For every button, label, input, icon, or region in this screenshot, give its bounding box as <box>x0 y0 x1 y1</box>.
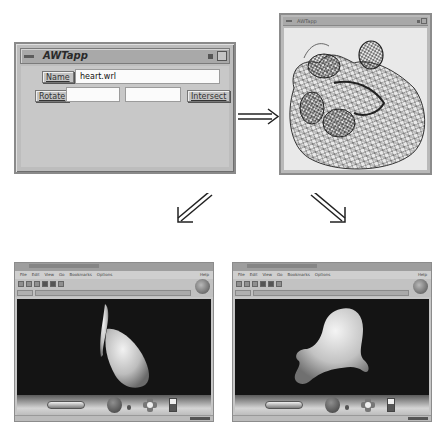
location-input[interactable] <box>35 290 191 296</box>
throbber-icon <box>195 279 210 294</box>
heart-model-icon <box>235 299 429 395</box>
navigation-dashboard <box>235 395 429 417</box>
heart-model-icon <box>17 299 211 395</box>
browser-titlebar[interactable] <box>233 263 431 271</box>
status-indicator <box>190 417 210 420</box>
forward-icon[interactable] <box>244 281 250 287</box>
vrml-browser-right: File Edit View Go Bookmarks Options Help <box>232 262 432 422</box>
location-label <box>17 290 33 296</box>
window-menu-icon[interactable] <box>24 55 34 58</box>
window-title: AWTapp <box>297 17 317 25</box>
menu-options[interactable]: Options <box>315 271 330 279</box>
reload-icon[interactable] <box>260 281 266 287</box>
arrow-right-icon <box>238 108 280 126</box>
intersect-button[interactable]: Intersect <box>187 90 230 102</box>
viewpoint-selector[interactable] <box>47 401 85 409</box>
browser-menubar: File Edit View Go Bookmarks Options Help <box>15 271 213 279</box>
location-bar <box>15 289 213 297</box>
window-menu-icon[interactable] <box>286 20 292 22</box>
minimize-icon[interactable] <box>208 54 213 59</box>
menu-help[interactable]: Help <box>200 271 209 279</box>
menu-view[interactable]: View <box>262 271 272 279</box>
window-title: AWTapp <box>43 50 88 61</box>
menu-file[interactable]: File <box>238 271 245 279</box>
arrow-down-right-icon <box>308 193 348 225</box>
browser-title <box>247 264 317 268</box>
arrow-down-left-icon <box>175 193 215 225</box>
navigation-dashboard <box>17 395 211 417</box>
rotate-ball-icon[interactable] <box>107 397 122 413</box>
forward-icon[interactable] <box>26 281 32 287</box>
rotate-field-2[interactable] <box>125 87 181 102</box>
home-icon[interactable] <box>34 281 40 287</box>
stop-icon[interactable] <box>58 281 64 287</box>
menu-edit[interactable]: Edit <box>250 271 258 279</box>
zoom-toggle-icon[interactable] <box>387 398 395 412</box>
menu-view[interactable]: View <box>44 271 54 279</box>
awtapp-window: AWTapp Name heart.wrl Rotate Intersect <box>14 42 236 174</box>
menu-bookmarks[interactable]: Bookmarks <box>70 271 92 279</box>
browser-title <box>29 264 99 268</box>
menu-go[interactable]: Go <box>277 271 283 279</box>
browser-toolbar <box>233 279 431 289</box>
menu-bookmarks[interactable]: Bookmarks <box>288 271 310 279</box>
menu-file[interactable]: File <box>20 271 27 279</box>
status-indicator <box>408 417 428 420</box>
throbber-icon <box>413 279 428 294</box>
stop-icon[interactable] <box>276 281 282 287</box>
minimize-icon[interactable] <box>417 20 420 23</box>
status-bar <box>15 415 213 421</box>
rotate-button[interactable]: Rotate <box>35 90 69 102</box>
rotate-field-1[interactable] <box>66 87 120 102</box>
pan-pad-icon[interactable] <box>361 398 375 412</box>
back-icon[interactable] <box>18 281 24 287</box>
wireframe-window: AWTapp <box>279 13 432 175</box>
name-button[interactable]: Name <box>42 71 74 83</box>
location-input[interactable] <box>253 290 409 296</box>
status-bar <box>233 415 431 421</box>
rotate-ball-icon[interactable] <box>325 397 340 413</box>
menu-options[interactable]: Options <box>97 271 112 279</box>
images-icon[interactable] <box>50 281 56 287</box>
vrml-scene[interactable] <box>235 299 429 395</box>
wireframe-titlebar[interactable]: AWTapp <box>283 17 428 26</box>
wireframe-heart-icon <box>284 28 427 170</box>
browser-titlebar[interactable] <box>15 263 213 271</box>
awtapp-client: Name heart.wrl Rotate Intersect <box>21 66 229 167</box>
menu-go[interactable]: Go <box>59 271 65 279</box>
browser-toolbar <box>15 279 213 289</box>
location-bar <box>233 289 431 297</box>
vrml-browser-left: File Edit View Go Bookmarks Options Help <box>14 262 214 422</box>
pan-pad-icon[interactable] <box>143 398 157 412</box>
menu-edit[interactable]: Edit <box>32 271 40 279</box>
maximize-icon[interactable] <box>421 18 427 24</box>
seek-icon[interactable] <box>127 405 131 410</box>
vrml-scene[interactable] <box>17 299 211 395</box>
browser-menubar: File Edit View Go Bookmarks Options Help <box>233 271 431 279</box>
awtapp-titlebar[interactable]: AWTapp <box>20 48 230 64</box>
location-label <box>235 290 251 296</box>
maximize-icon[interactable] <box>217 51 227 61</box>
viewpoint-selector[interactable] <box>265 401 303 409</box>
name-field[interactable]: heart.wrl <box>75 69 220 84</box>
menu-help[interactable]: Help <box>418 271 427 279</box>
wireframe-canvas[interactable] <box>284 28 427 170</box>
seek-icon[interactable] <box>345 405 349 410</box>
zoom-toggle-icon[interactable] <box>169 398 177 412</box>
images-icon[interactable] <box>268 281 274 287</box>
reload-icon[interactable] <box>42 281 48 287</box>
home-icon[interactable] <box>252 281 258 287</box>
back-icon[interactable] <box>236 281 242 287</box>
